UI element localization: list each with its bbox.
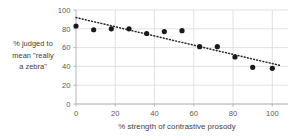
data-point [197,44,202,49]
plot-area: 020406080100 020406080100 [0,0,293,139]
y-tick-label: 40 [62,62,70,71]
x-tick-label: 20 [111,109,119,118]
x-tick-label: 0 [74,109,78,118]
data-point [91,27,96,32]
y-tick-labels: 020406080100 [58,6,71,109]
data-point [162,29,167,34]
x-axis-label: % strength of contrastive prosody [64,122,290,131]
data-point [250,65,255,70]
data-point [215,44,220,49]
x-tick-labels: 020406080100 [74,109,279,118]
y-tick-label: 100 [58,6,71,15]
x-tick-label: 60 [190,109,198,118]
x-tick-label: 80 [229,109,237,118]
data-point [73,23,78,28]
y-tick-label: 20 [62,81,70,90]
trendline [76,18,280,66]
y-tick-label: 0 [66,100,70,109]
vertical-gridlines [115,10,272,104]
data-point [179,28,184,33]
data-point [109,26,114,31]
x-tick-label: 40 [150,109,158,118]
trendline-path [76,18,280,66]
y-tick-label: 60 [62,43,70,52]
data-point [270,66,275,71]
data-point [126,26,131,31]
scatter-chart-figure: % judged to mean "really a zebra" 020406… [0,0,293,139]
y-tick-label: 80 [62,25,70,34]
data-point [232,54,237,59]
data-point [144,31,149,36]
x-tick-label: 100 [266,109,279,118]
horizontal-gridlines [76,10,288,104]
data-points [73,23,274,71]
